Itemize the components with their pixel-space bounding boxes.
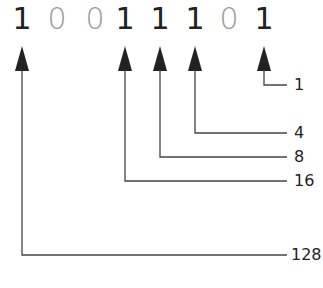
arrow-8-icon	[153, 46, 167, 71]
place-value-8: 8	[294, 149, 304, 165]
arrow-1-icon	[257, 46, 271, 71]
place-value-16: 16	[294, 173, 314, 189]
connector-1	[264, 70, 287, 85]
connector-128	[22, 70, 287, 255]
place-value-128: 128	[291, 247, 322, 263]
arrow-16-icon	[118, 46, 132, 71]
arrowheads	[15, 46, 271, 71]
connector-16	[125, 70, 287, 181]
connector-lines	[22, 70, 287, 255]
arrow-4-icon	[188, 46, 202, 71]
place-value-connectors	[0, 0, 323, 288]
place-value-1: 1	[294, 77, 304, 93]
place-value-4: 4	[294, 125, 304, 141]
arrow-128-icon	[15, 46, 29, 71]
connector-8	[160, 70, 287, 157]
connector-4	[195, 70, 287, 133]
